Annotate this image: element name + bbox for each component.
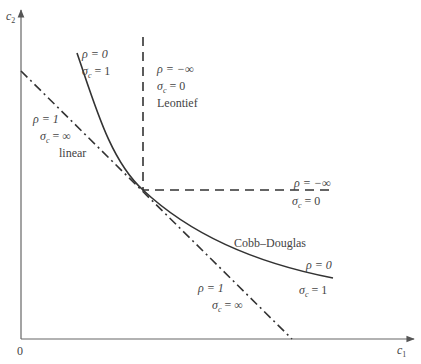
linear-curve <box>21 71 292 339</box>
leontief-right-sigma: σc = 0 <box>292 194 320 213</box>
origin-label: 0 <box>17 344 23 358</box>
diagram-canvas <box>0 0 421 364</box>
cd-right-rho: ρ = 0 <box>306 258 332 272</box>
linear-left-rho: ρ = 1 <box>33 112 59 126</box>
linear-bottom-rho: ρ = 1 <box>198 281 224 295</box>
leontief-right-rho: ρ = −∞ <box>294 176 331 190</box>
linear-left-tag: linear <box>59 146 86 160</box>
cd-top-rho: ρ = 0 <box>82 47 108 61</box>
x-axis-label: c1 <box>397 343 406 362</box>
cd-top-sigma: σc = 1 <box>82 64 110 83</box>
leontief-top-rho: ρ = −∞ <box>157 62 194 76</box>
leontief-curve <box>143 37 330 190</box>
cobb-douglas-tag: Cobb–Douglas <box>234 236 306 250</box>
leontief-top-tag: Leontief <box>157 96 198 110</box>
linear-bottom-sigma: σc = ∞ <box>212 298 243 317</box>
y-axis-label: c2 <box>6 9 15 28</box>
cd-right-sigma: σc = 1 <box>299 283 327 302</box>
